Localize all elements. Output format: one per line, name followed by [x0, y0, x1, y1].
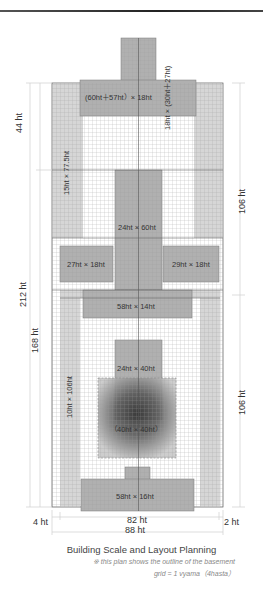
figure-title: Building Scale and Layout Planning — [10, 544, 263, 555]
grid-note: grid = 1 vyama（4hasta） — [154, 568, 235, 578]
dim-upper-left: 44 ht — [14, 112, 24, 133]
label-top-stem: 18ht × (30ht＋27ht) — [163, 65, 172, 130]
dim-right-lower: 106 ht — [237, 389, 247, 415]
label-left-wing: 15ht × 77.5ht — [62, 150, 71, 195]
label-top-crossbar: (60ht＋57ht）× 18ht — [85, 93, 153, 102]
label-basement: （40ht × 40ht） — [110, 425, 162, 434]
label-mid-bar: 58ht × 14ht — [117, 302, 156, 311]
label-inner-hall: 24ht × 40ht — [117, 364, 156, 373]
label-left-side: 27ht × 18ht — [67, 260, 106, 269]
dim-right-margin: 2 ht — [224, 517, 240, 527]
dim-total-width: 88 ht — [125, 525, 146, 535]
dim-lower-height: 168 ht — [30, 327, 40, 353]
dim-total-height: 212 ht — [18, 281, 28, 307]
label-center-hall: 24ht × 60ht — [118, 223, 157, 232]
dim-right-upper: 106 ht — [237, 188, 247, 214]
layout-plan-diagram: (60ht＋57ht）× 18ht 18ht × (30ht＋27ht) 15h… — [0, 0, 263, 601]
dim-inner-width: 82 ht — [127, 515, 148, 525]
label-left-strip: 10ht × 106ht — [65, 375, 74, 418]
dim-left-margin: 4 ht — [33, 517, 49, 527]
label-bottom-bar: 58ht × 16ht — [116, 492, 155, 501]
label-right-side: 29ht × 18ht — [172, 260, 211, 269]
figure-note: ※ this plan shows the outline of the bas… — [93, 558, 235, 566]
grid-overlay — [52, 83, 223, 507]
